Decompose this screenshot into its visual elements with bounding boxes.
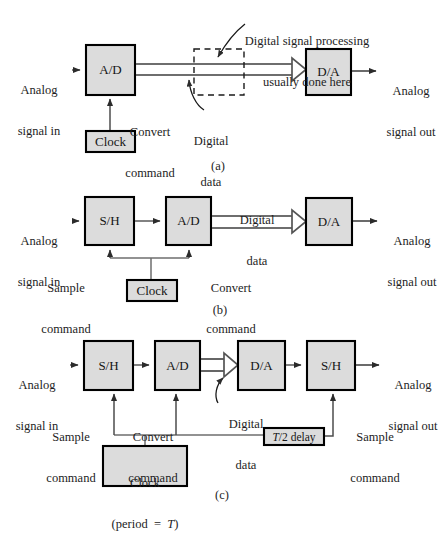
sample-command-right-label-c: Sample command <box>340 404 410 512</box>
ad-block-label-c: A/D <box>155 341 200 390</box>
caption-a: (a) <box>198 159 238 174</box>
analog-in-line1-c: Analog <box>2 379 72 393</box>
da-block-label-b: D/A <box>306 198 352 245</box>
sample-line1-b: Sample <box>31 282 101 296</box>
delay-rest-text-c: /2 delay <box>279 430 316 444</box>
sh-block-2-label-c: S/H <box>307 341 355 390</box>
analog-out-line2-b: signal out <box>378 276 446 290</box>
clock-line1-c: Clock <box>103 477 187 491</box>
clock-block-label-b: Clock <box>127 280 177 301</box>
clock-block-label-a: Clock <box>86 131 135 152</box>
sample-command-arrow-right-c <box>325 394 333 436</box>
digital-data-line1-b: Digital <box>228 214 286 228</box>
da-block-label-a: D/A <box>306 49 351 95</box>
clock-period-suffix-c: ) <box>174 517 178 531</box>
clock-block-label-c: Clock (period = T) <box>103 450 187 535</box>
dsp-note-line1-a: Digital signal processing <box>233 35 381 49</box>
caption-c: (c) <box>202 488 242 503</box>
convert-command-label-a: Convert command <box>116 99 184 207</box>
ad-block-label-a: A/D <box>86 45 135 95</box>
sample-right-line2-c: command <box>340 472 410 486</box>
convert-line2-a: command <box>116 167 184 181</box>
sample-left-line1-c: Sample <box>36 431 106 445</box>
analog-in-line1-b: Analog <box>4 235 74 249</box>
sh-block-1-label-c: S/H <box>84 341 133 390</box>
analog-out-label-a: Analog signal out <box>377 58 445 166</box>
caption-b: (b) <box>200 303 240 318</box>
analog-out-line1-b: Analog <box>378 235 446 249</box>
digital-data-line1-a: Digital <box>185 135 237 149</box>
clock-period-prefix-c: (period = <box>112 517 168 531</box>
ad-block-label-b: A/D <box>166 197 211 245</box>
convert-line2-b: command <box>196 323 266 337</box>
analog-in-line1-a: Analog <box>4 84 74 98</box>
analog-in-label-a: Analog signal in <box>4 57 74 165</box>
analog-in-line2-a: signal in <box>4 125 74 139</box>
sample-right-line1-c: Sample <box>340 431 410 445</box>
analog-out-label-b: Analog signal out <box>378 208 446 316</box>
bus-arrowhead-b <box>292 210 306 233</box>
clock-period-line-c: (period = T) <box>103 518 187 532</box>
analog-out-line1-c: Analog <box>380 379 446 393</box>
analog-out-line1-a: Analog <box>377 85 445 99</box>
da-block-label-c: D/A <box>238 341 285 390</box>
sample-command-left-label-c: Sample command <box>36 404 106 512</box>
sh-block-label-b: S/H <box>85 197 134 245</box>
convert-line1-b: Convert <box>196 282 266 296</box>
digital-data-label-c: Digital data <box>220 391 272 499</box>
analog-out-line2-a: signal out <box>377 126 445 140</box>
sample-left-line2-c: command <box>36 472 106 486</box>
sample-line2-b: command <box>31 323 101 337</box>
delay-block-label-c: T/2 delay <box>264 428 324 445</box>
digital-data-line2-c: data <box>220 459 272 473</box>
convert-line1-c: Convert <box>118 431 188 445</box>
